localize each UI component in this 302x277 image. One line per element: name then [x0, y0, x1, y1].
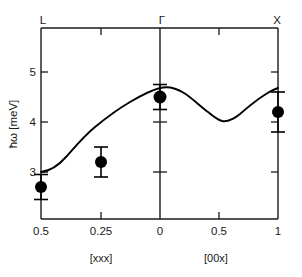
marker-X [272, 106, 284, 118]
x-tick-label-2: 0 [157, 225, 163, 237]
marker-2 [95, 156, 107, 168]
data-point-L [34, 175, 48, 200]
y-tick-label-3: 3 [30, 166, 36, 178]
marker-L [35, 181, 47, 193]
data-point-gamma [153, 85, 167, 110]
y-axis-ticks [41, 72, 48, 172]
chart-svg: 5 4 3 ħω [meV] 0.5 0.25 0 0.5 1 L Γ X [x… [0, 0, 302, 277]
branch-label-00x: [00x] [204, 252, 228, 264]
x-tick-label-3: 0.5 [211, 225, 227, 237]
branch-label-xxx: [xxx] [90, 252, 113, 264]
data-point-2 [94, 147, 108, 177]
x-tick-label-0: 0.5 [33, 225, 49, 237]
y-axis-ticks-right [271, 72, 278, 172]
symmetry-label-gamma: Γ [159, 14, 166, 26]
symmetry-label-L: L [40, 14, 47, 26]
phonon-dispersion-figure: 5 4 3 ħω [meV] 0.5 0.25 0 0.5 1 L Γ X [x… [0, 0, 302, 277]
plot-frame [41, 28, 278, 219]
x-tick-label-1: 0.25 [90, 225, 112, 237]
y-tick-label-5: 5 [30, 66, 36, 78]
y-tick-label-4: 4 [30, 116, 37, 128]
marker-gamma [154, 91, 167, 104]
y-axis-label: ħω [meV] [7, 100, 19, 149]
x-tick-label-4: 1 [275, 225, 281, 237]
data-point-X [271, 92, 285, 132]
symmetry-label-X: X [273, 14, 281, 26]
